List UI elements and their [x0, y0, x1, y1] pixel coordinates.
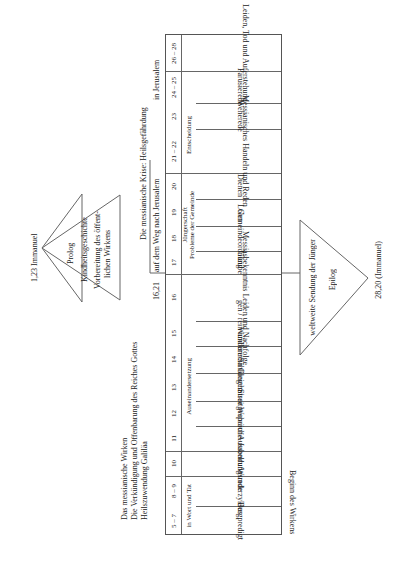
chapter-number: 21 – 22	[170, 141, 178, 162]
chapter-number: 14	[170, 356, 178, 363]
content-cell: Dienen	[236, 174, 245, 197]
matthew-structure-table: 26 – 28 24 – 25 23 21 – 22 20 19 18 17 1…	[165, 34, 282, 535]
chapter-number: 10	[170, 460, 178, 467]
chapter-number: 15	[170, 330, 178, 337]
chapter-number: 12	[170, 410, 178, 417]
chapter-number: 19	[170, 209, 178, 216]
prolog-line2: Vorbereitung des öffent-	[93, 211, 102, 289]
chapter-number: 24 – 25	[170, 77, 178, 98]
chapter-number: 17	[170, 259, 178, 266]
chapter-number: 13	[170, 384, 178, 391]
crisis-heading-line1: Die messianische Krise: Heilsgefährdung	[139, 107, 148, 240]
chapter-number: 16	[170, 294, 178, 301]
crisis-heading-on-the-way: auf dem Weg nach Jerusalem	[152, 179, 161, 272]
chapter-number: 8 – 9	[170, 484, 178, 498]
chapter-number: 5 – 7	[170, 514, 178, 528]
chapter-number: 20	[170, 183, 178, 190]
chapter-number: 26 – 28	[170, 43, 178, 64]
chapter-number: 18	[170, 235, 178, 242]
group-label-probleme: Probleme der Gemeinde	[188, 191, 196, 259]
prolog-line1: Kindheitsgeschichte	[80, 217, 89, 282]
group-label-entscheidung: Entscheidung	[185, 116, 193, 154]
main-heading-line2: Die Verkündigung und Offenbarung des Rei…	[130, 342, 139, 520]
chapter-number: 23	[170, 113, 178, 120]
prolog-title: Prolog	[66, 243, 75, 264]
prolog-start-ref: 1,23 Immanuel	[30, 234, 39, 282]
epilog-title: Epilog	[328, 269, 337, 290]
crisis-heading-in-jerusalem: in Jerusalem	[152, 60, 161, 100]
crisis-ref: 16,21	[152, 282, 161, 300]
chapter-number: 11	[170, 435, 178, 442]
group-label-auseinandersetzung: Auseinandersetzung	[185, 358, 193, 415]
epilog-end-ref: 28,20 (Immanuel)	[374, 241, 383, 299]
group-label-wort-und-tat: in Wort und Tat	[185, 484, 193, 528]
beginning-label: Beginn des Wirkens	[288, 470, 297, 534]
epilog-line1: weltweite Sendung der Jünger	[308, 239, 317, 336]
prolog-line3: lichen Wirkens	[103, 230, 112, 278]
main-heading-line1: Das messianische Wirken	[120, 438, 129, 520]
content-cell: Bergpredigt	[236, 502, 245, 540]
main-heading-line3: Heilszuwendung Galiläa	[140, 441, 149, 520]
